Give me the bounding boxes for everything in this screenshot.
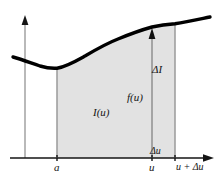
y-axis-arrowhead-icon (22, 15, 29, 25)
figure-canvas (0, 0, 223, 180)
axis-label-u: u (149, 162, 155, 173)
axis-label-a: a (54, 162, 60, 173)
axis-label-u-plus-delta-u: u + Δu (176, 162, 204, 172)
label-I-u: I(u) (93, 107, 110, 118)
integral-increment-figure: ΔI f(u) I(u) Δu a u u + Δu (0, 0, 223, 180)
shaded-area-I-u (57, 24, 175, 158)
label-f-u: f(u) (127, 92, 143, 103)
x-axis-arrowhead-icon (203, 154, 214, 162)
label-delta-u: Δu (150, 146, 161, 156)
label-delta-I: ΔI (152, 64, 162, 75)
